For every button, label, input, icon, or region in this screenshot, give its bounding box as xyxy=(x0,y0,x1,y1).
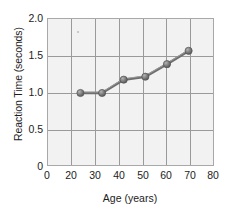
x-tick-label: 80 xyxy=(201,170,225,181)
data-point-marker xyxy=(142,73,149,80)
chart-figure: Reaction Time (seconds) 2.0 1.5 1.0 0.5 … xyxy=(0,0,227,216)
y-tick-label: 2.0 xyxy=(3,13,43,24)
x-tick-label: 50 xyxy=(131,170,155,181)
x-axis-title: Age (years) xyxy=(45,192,215,204)
x-tick-label: 30 xyxy=(83,170,107,181)
y-tick-label: 1.0 xyxy=(3,87,43,98)
data-point-marker xyxy=(185,47,192,54)
data-point-marker xyxy=(120,76,127,83)
data-series-line xyxy=(48,19,214,166)
x-tick-label: 20 xyxy=(59,170,83,181)
y-tick-label: 0.5 xyxy=(3,124,43,135)
data-point-marker xyxy=(163,61,170,68)
y-tick-label: 1.5 xyxy=(3,50,43,61)
y-axis-title: Reaction Time (seconds) xyxy=(12,4,24,164)
data-point-marker xyxy=(98,89,105,96)
x-tick-label: 0 xyxy=(35,170,59,181)
data-point-marker xyxy=(77,89,84,96)
plot-area xyxy=(47,18,214,166)
x-tick-label: 40 xyxy=(107,170,131,181)
x-tick-label: 60 xyxy=(154,170,178,181)
x-tick-label: 70 xyxy=(178,170,202,181)
